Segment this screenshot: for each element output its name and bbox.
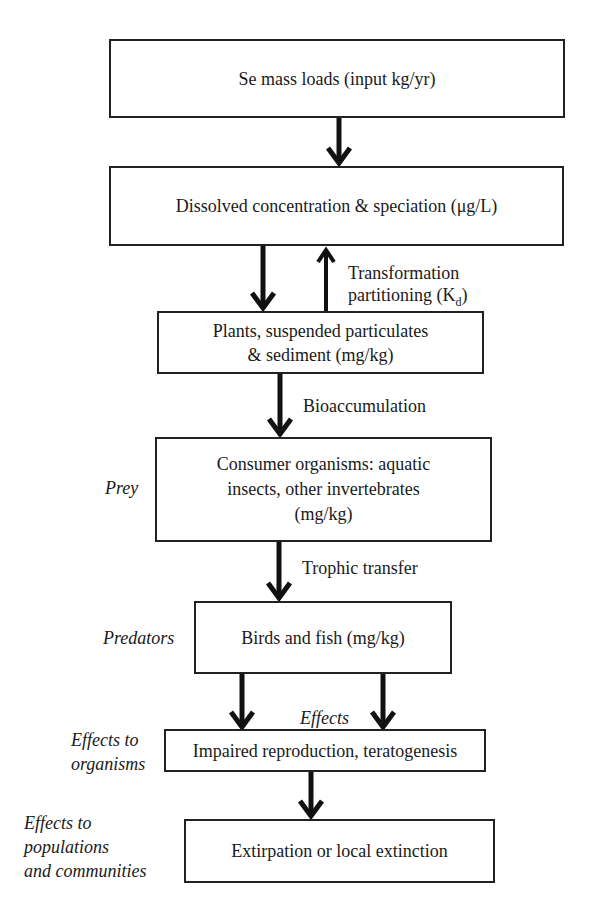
- label-transformation-line2: partitioning (Kd): [348, 284, 467, 313]
- box-consumer-organisms: Consumer organisms: aquatic insects, oth…: [155, 437, 492, 542]
- label-trophic-transfer: Trophic transfer: [302, 557, 418, 579]
- box-consumer-line2: insects, other invertebrates: [227, 477, 419, 502]
- box-plants-line2: & sediment (mg/kg): [248, 343, 394, 367]
- box-impaired-text: Impaired reproduction, teratogenesis: [193, 739, 457, 763]
- box-dissolved-concentration: Dissolved concentration & speciation (μg…: [109, 166, 564, 246]
- box-birds-fish: Birds and fish (mg/kg): [194, 601, 452, 674]
- box-impaired-reproduction: Impaired reproduction, teratogenesis: [164, 729, 486, 772]
- box-se-mass-loads: Se mass loads (input kg/yr): [109, 39, 565, 118]
- box-plants-line1: Plants, suspended particulates: [213, 319, 428, 343]
- side-label-effects-organisms: Effects to organisms: [71, 728, 145, 776]
- arrow-plants-to-dissolved: [318, 250, 334, 311]
- box-consumer-line3: (mg/kg): [295, 502, 353, 527]
- label-transformation: Transformation partitioning (Kd): [348, 262, 467, 313]
- side-label-prey: Prey: [105, 477, 138, 499]
- arrow-birds-to-impaired-left: [231, 674, 253, 727]
- arrow-plants-to-consumer: [269, 374, 291, 434]
- arrow-impaired-to-extirpation: [300, 772, 322, 816]
- box-consumer-line1: Consumer organisms: aquatic: [217, 452, 431, 477]
- arrow-consumer-to-birds: [268, 542, 290, 598]
- box-se-mass-loads-text: Se mass loads (input kg/yr): [239, 67, 436, 91]
- box-plants-sediment: Plants, suspended particulates & sedimen…: [157, 311, 484, 374]
- label-effects: Effects: [300, 707, 349, 729]
- label-bioaccumulation: Bioaccumulation: [303, 395, 426, 417]
- label-transformation-line1: Transformation: [348, 262, 467, 284]
- box-extirpation: Extirpation or local extinction: [184, 819, 495, 883]
- box-extirpation-text: Extirpation or local extinction: [231, 839, 447, 863]
- box-dissolved-text: Dissolved concentration & speciation (μg…: [176, 194, 498, 218]
- arrow-dissolved-to-plants: [252, 246, 274, 308]
- box-birds-fish-text: Birds and fish (mg/kg): [241, 626, 405, 650]
- arrow-mass-to-dissolved: [328, 118, 350, 163]
- side-label-effects-populations: Effects to populations and communities: [24, 811, 146, 883]
- arrow-birds-to-impaired-right: [372, 674, 394, 727]
- side-label-predators: Predators: [103, 627, 174, 649]
